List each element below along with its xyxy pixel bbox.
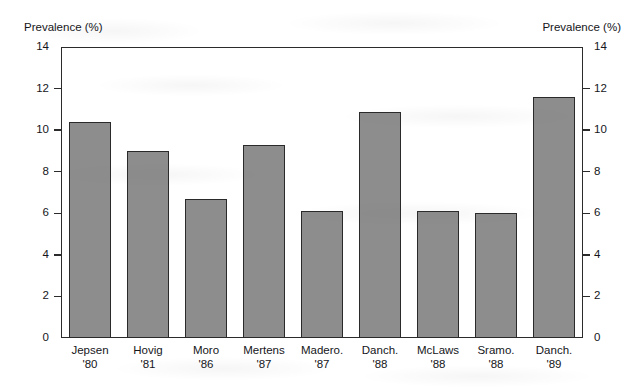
x-axis-category-label: Danch.'88 bbox=[351, 344, 409, 371]
prevalence-bar-chart: Prevalence (%) Prevalence (%) 0022446688… bbox=[0, 0, 636, 388]
y-tick-mark-left bbox=[54, 171, 61, 172]
x-axis-category-label: Madero.'87 bbox=[293, 344, 351, 371]
y-tick-label-left: 14 bbox=[36, 40, 49, 52]
x-axis-category-label: Moro'86 bbox=[177, 344, 235, 371]
bar bbox=[243, 145, 285, 338]
x-axis-category-label: Danch.'89 bbox=[525, 344, 583, 371]
category-name: Hovig bbox=[119, 344, 177, 358]
category-year: '87 bbox=[293, 358, 351, 372]
y-tick-mark-left bbox=[54, 88, 61, 89]
y-axis-title-right: Prevalence (%) bbox=[542, 21, 621, 34]
y-tick-label-left: 12 bbox=[36, 82, 49, 94]
category-name: Danch. bbox=[351, 344, 409, 358]
y-tick-label-left: 6 bbox=[43, 206, 49, 218]
x-axis-category-label: Sramo.'88 bbox=[467, 344, 525, 371]
category-name: Mertens bbox=[235, 344, 293, 358]
y-tick-mark-right bbox=[583, 88, 590, 89]
y-tick-mark-left bbox=[54, 213, 61, 214]
y-tick-label-right: 4 bbox=[594, 248, 600, 260]
y-tick-mark-left bbox=[54, 254, 61, 255]
x-axis-category-label: Hovig'81 bbox=[119, 344, 177, 371]
y-tick-label-left: 10 bbox=[36, 123, 49, 135]
bar bbox=[533, 97, 575, 338]
y-tick-label-right: 2 bbox=[594, 289, 600, 301]
bar bbox=[127, 151, 169, 338]
bars-layer bbox=[61, 47, 583, 338]
bar bbox=[359, 112, 401, 338]
y-tick-label-right: 8 bbox=[594, 165, 600, 177]
y-tick-mark-right bbox=[583, 171, 590, 172]
y-tick-label-right: 14 bbox=[594, 40, 607, 52]
category-year: '88 bbox=[409, 358, 467, 372]
category-name: Madero. bbox=[293, 344, 351, 358]
y-tick-label-left: 4 bbox=[43, 248, 49, 260]
category-year: '88 bbox=[467, 358, 525, 372]
y-tick-label-right: 12 bbox=[594, 82, 607, 94]
bar bbox=[301, 211, 343, 338]
bar bbox=[417, 211, 459, 338]
y-tick-mark-left bbox=[54, 296, 61, 297]
y-tick-label-right: 10 bbox=[594, 123, 607, 135]
y-tick-mark-left bbox=[54, 129, 61, 130]
x-axis-category-label: Jepsen'80 bbox=[61, 344, 119, 371]
category-year: '81 bbox=[119, 358, 177, 372]
bar bbox=[69, 122, 111, 338]
y-tick-label-left: 0 bbox=[43, 331, 49, 343]
category-year: '89 bbox=[525, 358, 583, 372]
category-name: Danch. bbox=[525, 344, 583, 358]
y-tick-mark-right bbox=[583, 213, 590, 214]
category-name: Jepsen bbox=[61, 344, 119, 358]
category-year: '88 bbox=[351, 358, 409, 372]
x-axis-category-label: Mertens'87 bbox=[235, 344, 293, 371]
y-tick-label-left: 2 bbox=[43, 289, 49, 301]
bar bbox=[475, 213, 517, 338]
category-year: '87 bbox=[235, 358, 293, 372]
y-tick-mark-right bbox=[583, 254, 590, 255]
y-tick-label-right: 0 bbox=[594, 331, 600, 343]
category-name: Moro bbox=[177, 344, 235, 358]
category-name: McLaws bbox=[409, 344, 467, 358]
bar bbox=[185, 199, 227, 338]
y-tick-mark-right bbox=[583, 296, 590, 297]
category-year: '80 bbox=[61, 358, 119, 372]
y-axis-title-left: Prevalence (%) bbox=[24, 21, 103, 34]
x-axis-category-label: McLaws'88 bbox=[409, 344, 467, 371]
y-tick-mark-right bbox=[583, 129, 590, 130]
category-year: '86 bbox=[177, 358, 235, 372]
y-tick-label-right: 6 bbox=[594, 206, 600, 218]
y-tick-label-left: 8 bbox=[43, 165, 49, 177]
category-name: Sramo. bbox=[467, 344, 525, 358]
